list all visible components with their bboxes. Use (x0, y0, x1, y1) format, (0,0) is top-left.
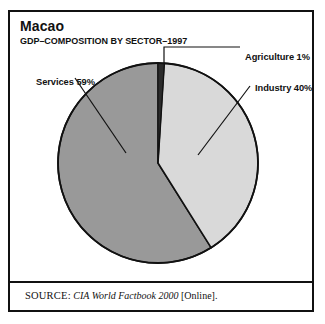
pie-chart-area: Agriculture 1% Industry 40% Services 59% (8, 10, 314, 312)
source-note: SOURCE: CIA World Factbook 2000 [Online]… (25, 291, 217, 302)
pie-label-industry: Industry 40% (255, 84, 312, 93)
source-publication: CIA World Factbook 2000 (73, 290, 178, 301)
pie-label-agriculture: Agriculture 1% (245, 53, 310, 62)
source-medium: [Online]. (181, 290, 217, 301)
pie-label-services: Services 59% (36, 78, 95, 87)
source-divider (10, 281, 312, 283)
source-label: SOURCE: (25, 290, 71, 301)
leader-line-agriculture (164, 47, 240, 63)
figure-container: Macao GDP–COMPOSITION BY SECTOR–1997 Agr… (0, 0, 325, 324)
